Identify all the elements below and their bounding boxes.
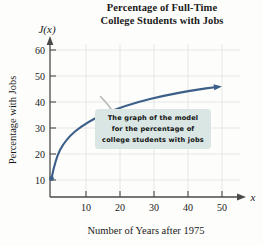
x-axis-variable-label: x bbox=[250, 191, 256, 203]
x-tick-label-10: 10 bbox=[81, 202, 91, 213]
x-tick-label-30: 30 bbox=[149, 202, 159, 213]
y-axis-variable-label: J(x) bbox=[38, 23, 55, 36]
y-tick-label-30: 30 bbox=[35, 123, 45, 134]
curve-end-arrowhead bbox=[214, 84, 223, 90]
callout-line-3: college students with jobs bbox=[102, 136, 204, 144]
y-tick-label-10: 10 bbox=[35, 175, 45, 186]
y-tick-label-50: 50 bbox=[35, 71, 45, 82]
y-tick-label-40: 40 bbox=[35, 97, 45, 108]
x-axis-arrowhead bbox=[237, 194, 246, 201]
x-axis-title: Number of Years after 1975 bbox=[88, 225, 205, 236]
chart-plot: 60 50 40 30 20 10 10 20 30 40 50 J(x) x … bbox=[0, 0, 263, 246]
x-axis-ticks bbox=[86, 191, 222, 197]
y-axis-title: Percentage with Jobs bbox=[7, 76, 18, 165]
x-tick-label-40: 40 bbox=[183, 202, 193, 213]
callout-line-2: for the percentage of bbox=[112, 125, 195, 133]
callout-line-1: The graph of the model bbox=[108, 114, 199, 122]
y-tick-label-60: 60 bbox=[35, 45, 45, 56]
x-tick-label-20: 20 bbox=[115, 202, 125, 213]
curve-start-point bbox=[49, 176, 54, 181]
y-axis-arrowhead bbox=[47, 36, 54, 45]
x-tick-label-50: 50 bbox=[217, 202, 227, 213]
chart-figure: Percentage of Full-Time College Students… bbox=[0, 0, 263, 246]
y-tick-label-20: 20 bbox=[35, 149, 45, 160]
